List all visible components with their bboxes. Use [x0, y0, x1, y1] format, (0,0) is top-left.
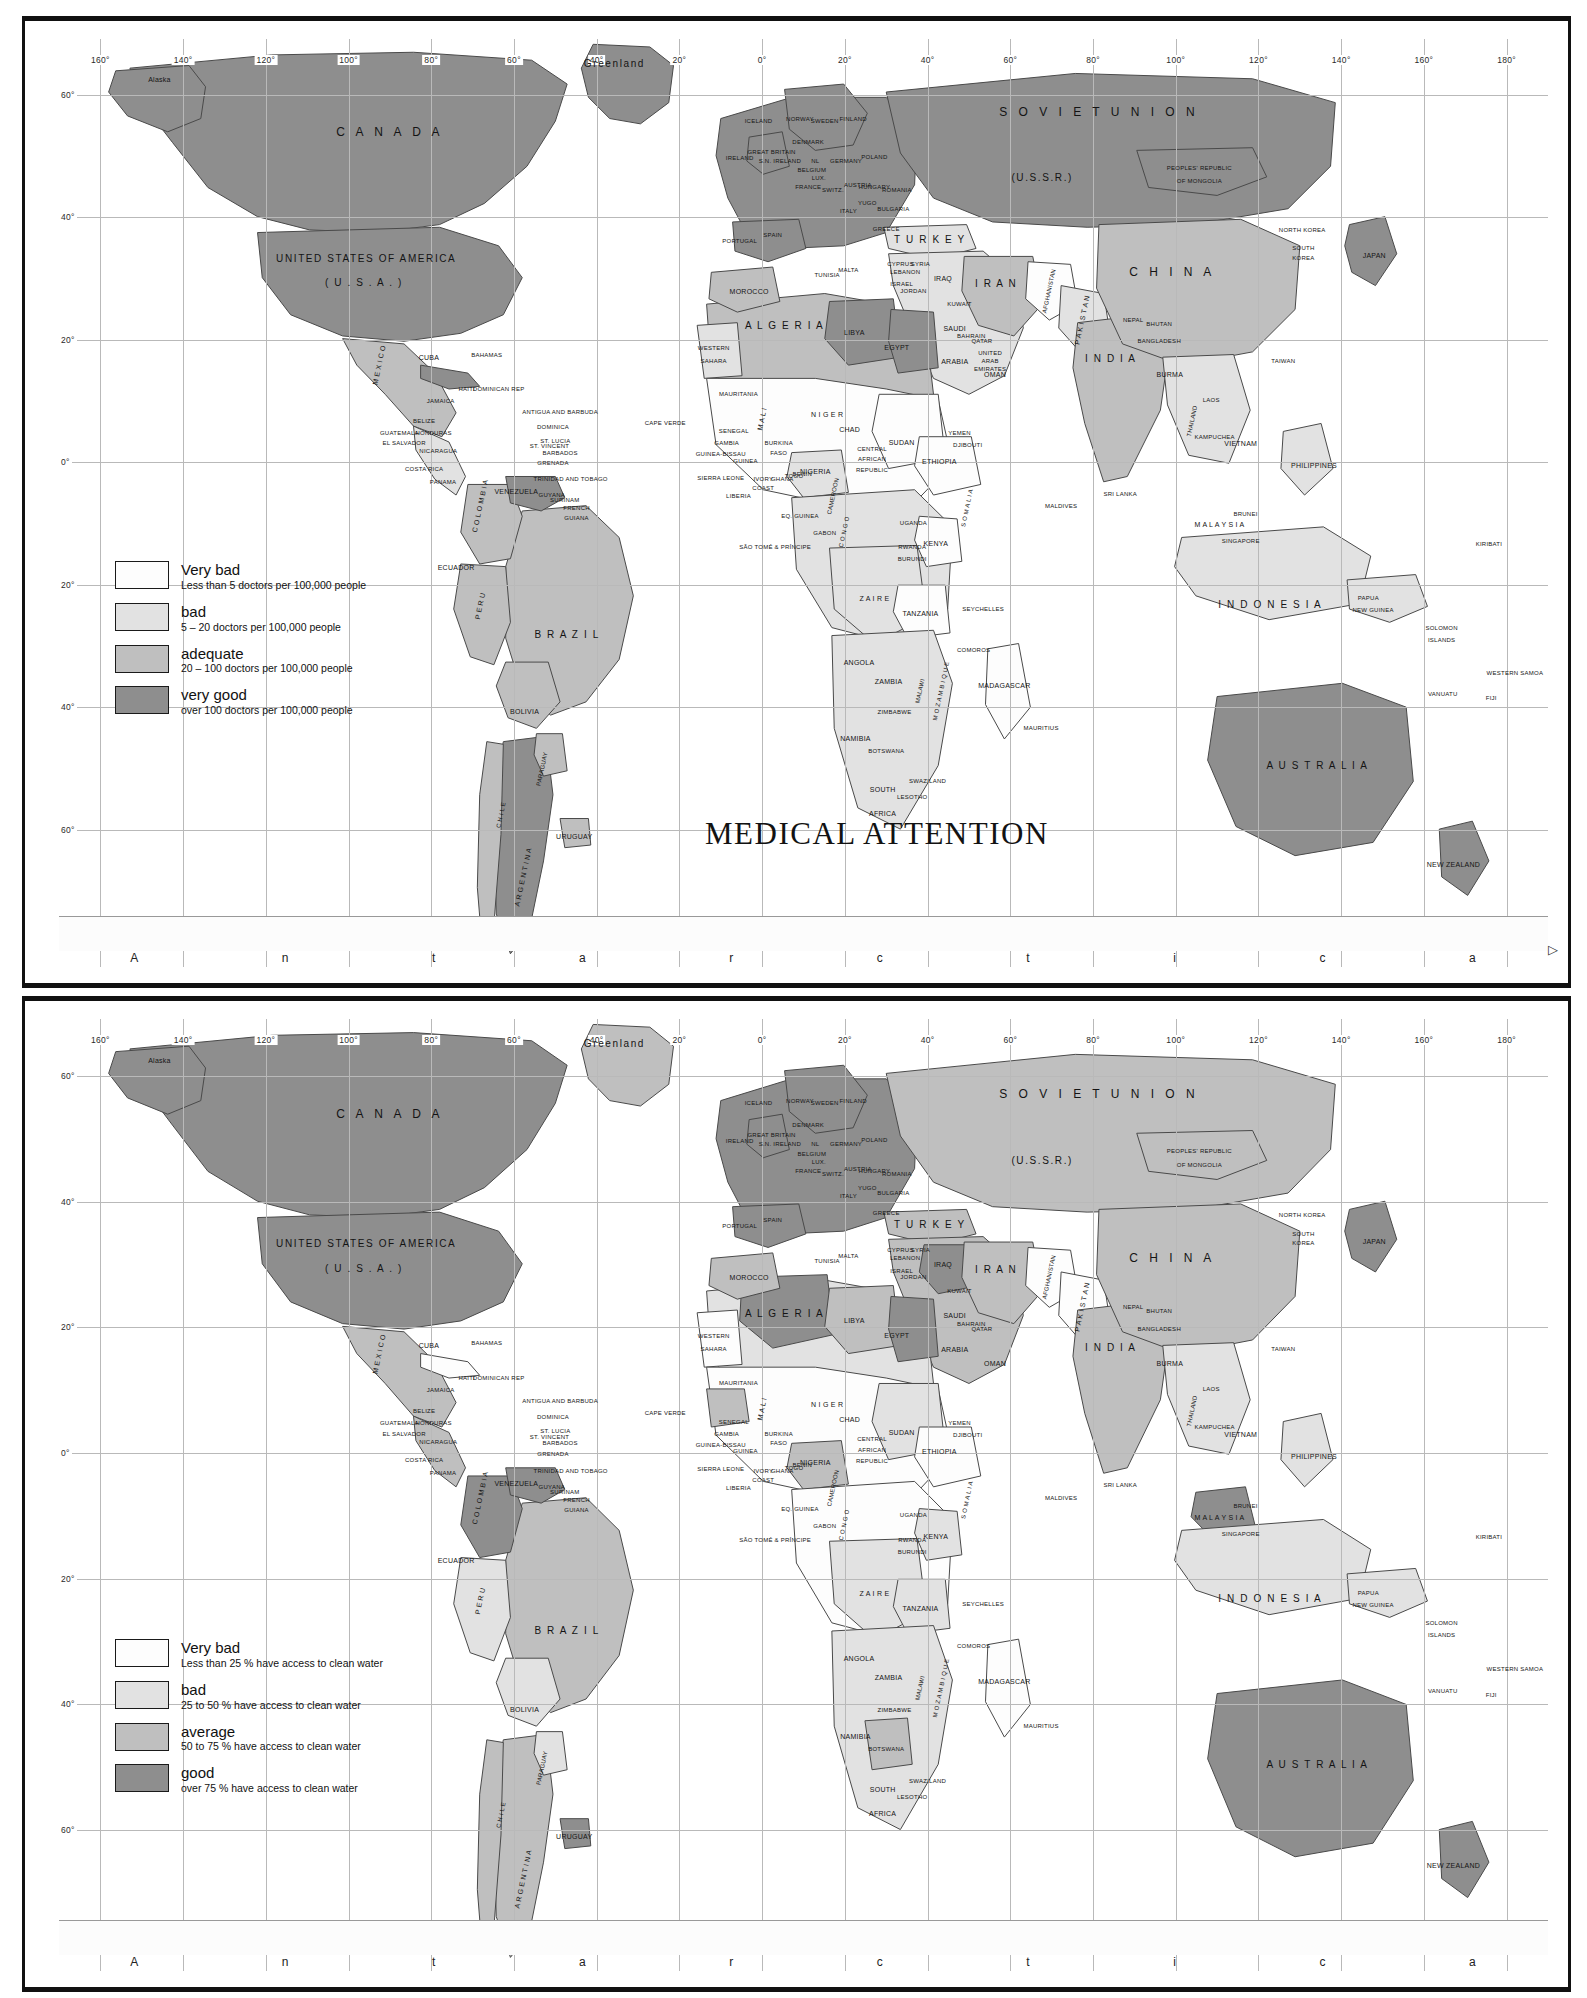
- map-inner-water: 160°140°120°100°80°60°40°20°0°20°40°60°8…: [59, 1019, 1548, 1971]
- meridian-line: [597, 1019, 598, 1971]
- legend-description: 5 – 20 doctors per 100,000 people: [181, 622, 341, 633]
- longitude-label: 80°: [422, 55, 440, 65]
- page-arrow-icon[interactable]: ▷: [1548, 942, 1558, 957]
- legend-swatch-tier3: [115, 1723, 169, 1751]
- meridian-line: [597, 39, 598, 967]
- map-title-medical-attention: MEDICAL ATTENTION: [705, 816, 1049, 852]
- legend-label: good: [181, 1765, 358, 1781]
- legend-label: bad: [181, 604, 341, 620]
- legend-row-tier2: bad5 – 20 doctors per 100,000 people: [115, 603, 366, 633]
- legend-text-group: very goodover 100 doctors per 100,000 pe…: [181, 686, 353, 716]
- meridian-line: [679, 1019, 680, 1971]
- atlas-page: 160°140°120°100°80°60°40°20°0°20°40°60°8…: [0, 0, 1587, 1998]
- legend-text-group: goodover 75 % have access to clean water: [181, 1764, 358, 1794]
- meridian-line: [266, 39, 267, 967]
- landmass-newzealand: [1439, 821, 1489, 895]
- antarctica-letter: i: [1173, 951, 1177, 965]
- legend-row-tier1: Very badLess than 5 doctors per 100,000 …: [115, 561, 366, 591]
- legend-row-tier2: bad25 to 50 % have access to clean water: [115, 1681, 383, 1711]
- meridian-line: [1093, 39, 1094, 967]
- antarctica-letter: a: [579, 1955, 587, 1969]
- antarctica-letter: r: [729, 951, 734, 965]
- antarctica-letter: c: [1319, 951, 1326, 965]
- meridian-line: [431, 1019, 432, 1971]
- parallel-line: [59, 217, 1548, 218]
- latitude-label: 20°: [59, 335, 77, 345]
- landmass-ussr: [886, 73, 1335, 227]
- antarctica-letter: a: [579, 951, 587, 965]
- latitude-label: 60°: [59, 90, 77, 100]
- landmass-egypt: [889, 309, 939, 373]
- legend-description: Less than 5 doctors per 100,000 people: [181, 580, 366, 591]
- legend-text-group: bad5 – 20 doctors per 100,000 people: [181, 603, 341, 633]
- longitude-label: 100°: [337, 1035, 360, 1045]
- meridian-line: [514, 39, 515, 967]
- legend-row-tier4: goodover 75 % have access to clean water: [115, 1764, 383, 1794]
- longitude-label: 160°: [89, 55, 112, 65]
- map-canvas-water: 160°140°120°100°80°60°40°20°0°20°40°60°8…: [25, 1001, 1568, 1987]
- longitude-label: 40°: [588, 1035, 606, 1045]
- longitude-label: 180°: [1495, 1035, 1518, 1045]
- legend-swatch-tier2: [115, 603, 169, 631]
- parallel-line: [59, 462, 1548, 463]
- landmass-spain: [733, 1204, 806, 1248]
- legend-drinking-water-supplies: Very badLess than 25 % have access to cl…: [115, 1639, 383, 1806]
- parallel-line: [59, 1579, 1548, 1580]
- legend-label: average: [181, 1724, 361, 1740]
- parallel-line: [59, 1202, 1548, 1203]
- latitude-label: 0°: [59, 1448, 72, 1458]
- antarctica-letter: c: [877, 1955, 884, 1969]
- antarctica-coastline-medical: [59, 916, 1548, 951]
- longitude-label: 20°: [671, 55, 689, 65]
- parallel-line: [59, 1830, 1548, 1831]
- meridian-line: [1258, 1019, 1259, 1971]
- legend-text-group: Very badLess than 5 doctors per 100,000 …: [181, 561, 366, 591]
- legend-label: Very bad: [181, 562, 366, 578]
- antarctica-letter: r: [729, 1955, 734, 1969]
- longitude-label: 140°: [172, 1035, 195, 1045]
- longitude-label: 0°: [756, 55, 769, 65]
- parallel-line: [59, 1453, 1548, 1454]
- longitude-label: 140°: [1330, 1035, 1353, 1045]
- latitude-label: 60°: [59, 1071, 77, 1081]
- longitude-label: 60°: [505, 55, 523, 65]
- longitude-label: 120°: [1247, 55, 1270, 65]
- meridian-line: [183, 39, 184, 967]
- landmass-senegal: [707, 1389, 750, 1427]
- antarctica-letter: a: [1469, 1955, 1477, 1969]
- antarctica-letter: A: [130, 1955, 139, 1969]
- meridian-line: [679, 39, 680, 967]
- longitude-label: 140°: [1330, 55, 1353, 65]
- meridian-line: [100, 1019, 101, 1971]
- meridian-line: [845, 1019, 846, 1971]
- legend-description: 50 to 75 % have access to clean water: [181, 1741, 361, 1752]
- latitude-label: 20°: [59, 1574, 77, 1584]
- landmass-japan: [1345, 217, 1397, 286]
- legend-description: over 75 % have access to clean water: [181, 1783, 358, 1794]
- longitude-label: 180°: [1495, 55, 1518, 65]
- landmass-layer-water: [59, 1019, 1548, 1971]
- longitude-label: 80°: [1084, 1035, 1102, 1045]
- antarctica-label-medical: Antarctica: [59, 951, 1548, 965]
- legend-swatch-tier1: [115, 561, 169, 589]
- landmass-madagascar: [985, 1639, 1030, 1737]
- landmass-uruguay: [560, 1819, 591, 1849]
- map-panel-medical-attention: 160°140°120°100°80°60°40°20°0°20°40°60°8…: [22, 16, 1571, 988]
- longitude-label: 100°: [337, 55, 360, 65]
- legend-description: Less than 25 % have access to clean wate…: [181, 1658, 383, 1669]
- landmass-spain: [733, 219, 806, 261]
- legend-label: bad: [181, 1682, 361, 1698]
- meridian-line: [431, 39, 432, 967]
- map-panel-drinking-water-supplies: 160°140°120°100°80°60°40°20°0°20°40°60°8…: [22, 996, 1571, 1992]
- legend-text-group: adequate20 – 100 doctors per 100,000 peo…: [181, 645, 353, 675]
- meridian-line: [514, 1019, 515, 1971]
- landmass-mexico: [343, 1326, 456, 1427]
- landmass-uruguay: [560, 819, 591, 848]
- latitude-label: 40°: [59, 702, 77, 712]
- longitude-label: 140°: [172, 55, 195, 65]
- longitude-label: 120°: [1247, 1035, 1270, 1045]
- meridian-line: [1341, 1019, 1342, 1971]
- longitude-label: 80°: [422, 1035, 440, 1045]
- landmass-china: [1097, 219, 1300, 365]
- legend-label: Very bad: [181, 1640, 383, 1656]
